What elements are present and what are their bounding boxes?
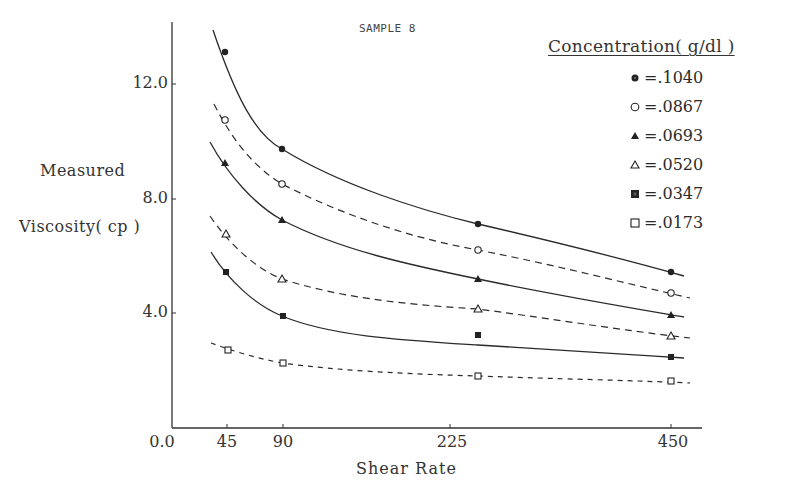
x-axis-label: Shear Rate — [356, 459, 457, 478]
y-axis-label-line1: Measured — [40, 161, 125, 180]
open-square-icon — [628, 216, 642, 230]
x-tick-90: 90 — [258, 432, 308, 451]
legend-item-0520: =.0520 — [628, 150, 703, 179]
curve-0867 — [214, 104, 690, 298]
y-tick-4: 4.0 — [108, 302, 168, 321]
markers-0693 — [221, 159, 675, 318]
legend-item-0867: =.0867 — [628, 92, 703, 121]
curve-0693 — [210, 142, 684, 317]
filled-triangle-icon — [628, 129, 642, 143]
filled-circle-icon — [628, 71, 642, 85]
y-tick-12: 12.0 — [108, 73, 168, 92]
markers-0347 — [223, 269, 674, 360]
viscosity-chart: SAMPLE 8 Measured Viscosity( cp ) 12.0 8… — [0, 0, 788, 497]
legend-item-0347: =.0347 — [628, 179, 703, 208]
markers-1040 — [222, 49, 674, 275]
open-circle-icon — [628, 100, 642, 114]
filled-square-icon — [628, 187, 642, 201]
sample-title: SAMPLE 8 — [359, 22, 416, 35]
x-tick-45: 45 — [202, 432, 252, 451]
legend-items: =.1040 =.0867 =.0693 =.0520 =.0347 =.017… — [628, 63, 703, 237]
y-tick-8: 8.0 — [108, 188, 168, 207]
y-axis-label-line2: Viscosity( cp ) — [19, 217, 140, 236]
legend-item-0693: =.0693 — [628, 121, 703, 150]
markers-0520 — [222, 230, 675, 339]
markers-0867 — [222, 117, 674, 296]
legend-item-1040: =.1040 — [628, 63, 703, 92]
open-triangle-icon — [628, 158, 642, 172]
legend-title: Concentration( g/dl ) — [548, 36, 735, 56]
x-tick-0: 0.0 — [137, 432, 187, 451]
curve-1040 — [213, 30, 684, 276]
legend: Concentration( g/dl ) — [548, 36, 735, 56]
x-tick-450: 450 — [648, 432, 698, 451]
x-tick-225: 225 — [427, 432, 477, 451]
legend-item-0173: =.0173 — [628, 208, 703, 237]
